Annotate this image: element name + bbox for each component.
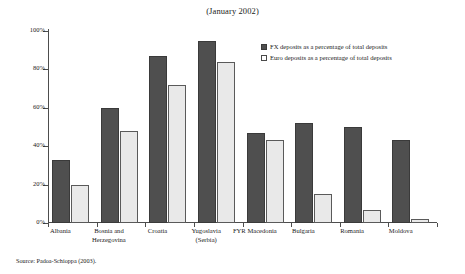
- bar-euro-deposits: [217, 62, 235, 223]
- bar-euro-deposits: [71, 185, 89, 223]
- bar-euro-deposits: [168, 85, 186, 223]
- y-axis-tick-label: 40%: [33, 141, 45, 148]
- legend-swatch-fx-deposits: [261, 44, 267, 50]
- legend-swatch-euro-deposits: [261, 55, 267, 61]
- y-axis-tick-label: 80%: [33, 64, 45, 71]
- legend-label: Euro deposits as a percentage of total d…: [270, 54, 392, 61]
- bar-euro-deposits: [363, 210, 381, 223]
- chart-legend: FX deposits as a percentage of total dep…: [261, 41, 392, 63]
- source-note: Source: Padoa-Schioppa (2003).: [16, 257, 96, 264]
- bar-euro-deposits: [411, 219, 429, 223]
- bar-fx-deposits: [149, 56, 167, 223]
- y-axis-tick-label: 0%: [36, 218, 45, 225]
- y-axis-tick-label: 100%: [30, 26, 45, 33]
- bar-fx-deposits: [198, 41, 216, 223]
- bar-fx-deposits: [344, 127, 362, 223]
- bar-group: [48, 31, 97, 223]
- x-axis-category-label-line: Moldova: [365, 227, 437, 236]
- bar-euro-deposits: [266, 140, 284, 223]
- bar-group: [194, 31, 243, 223]
- bar-euro-deposits: [314, 194, 332, 223]
- bar-euro-deposits: [120, 131, 138, 223]
- x-axis-category-label-line: (Serbia): [170, 236, 242, 245]
- y-axis-tick-label: 20%: [33, 180, 45, 187]
- chart-title: (January 2002): [0, 6, 465, 16]
- x-axis-tick-mark: [437, 223, 438, 227]
- bar-group: [145, 31, 194, 223]
- legend-item: FX deposits as a percentage of total dep…: [261, 41, 392, 52]
- bar-fx-deposits: [392, 140, 410, 223]
- legend-label: FX deposits as a percentage of total dep…: [270, 43, 387, 50]
- legend-item: Euro deposits as a percentage of total d…: [261, 52, 392, 63]
- bar-fx-deposits: [52, 160, 70, 223]
- bar-fx-deposits: [295, 123, 313, 223]
- bar-fx-deposits: [101, 108, 119, 223]
- bar-group: [97, 31, 146, 223]
- bar-group: [388, 31, 437, 223]
- chart-figure: (January 2002) 0%20%40%60%80%100% Albani…: [0, 0, 465, 274]
- x-axis-category-label: Moldova: [365, 227, 437, 236]
- y-axis-tick-label: 60%: [33, 103, 45, 110]
- x-axis-category-label-line: Herzegovina: [73, 236, 145, 245]
- bar-fx-deposits: [247, 133, 265, 223]
